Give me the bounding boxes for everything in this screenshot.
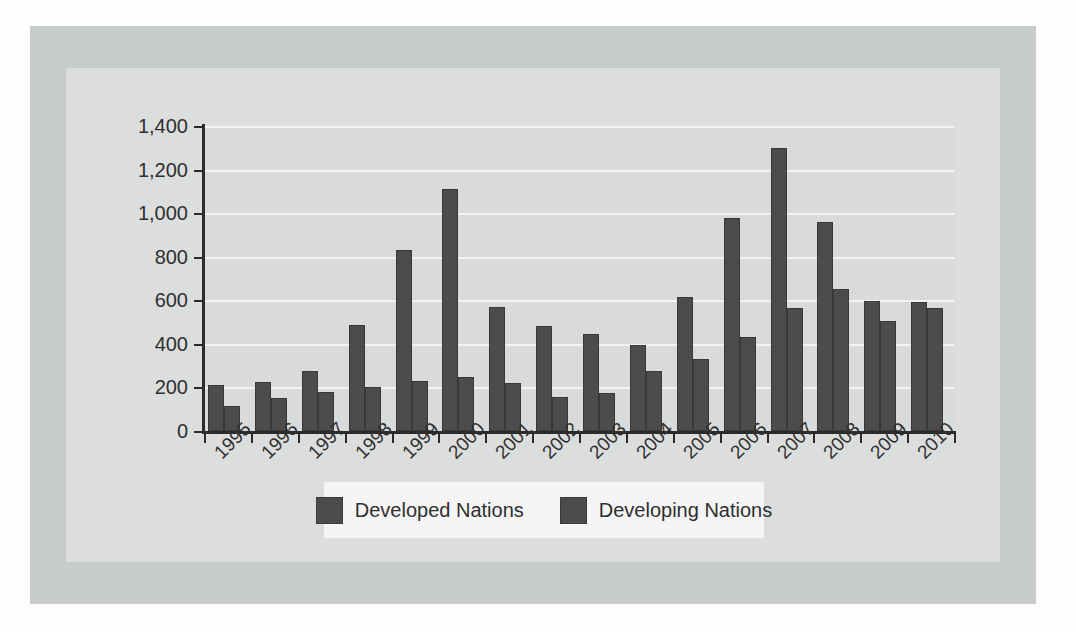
y-tick-label: 400: [155, 332, 188, 355]
y-tick-mark: [194, 170, 203, 172]
y-tick-label: 1,000: [138, 202, 188, 225]
legend-swatch-icon: [316, 497, 343, 524]
gridline: [204, 257, 954, 259]
y-tick-mark: [194, 213, 203, 215]
bar-2005-developed: [677, 297, 693, 431]
bar-1995-developed: [208, 385, 224, 431]
bar-2000-developed: [442, 189, 458, 431]
gridline: [204, 213, 954, 215]
y-tick-mark: [194, 344, 203, 346]
bar-2009-developed: [864, 301, 880, 431]
bar-2008-developing: [833, 289, 849, 431]
legend-item-developing: Developing Nations: [560, 497, 772, 524]
y-tick-label: 800: [155, 245, 188, 268]
y-tick-label: 600: [155, 289, 188, 312]
y-tick-label: 1,400: [138, 115, 188, 138]
inner-panel: 02004006008001,0001,2001,400 19951996199…: [66, 68, 1000, 562]
bar-1997-developed: [302, 371, 318, 431]
bar-2003-developed: [583, 334, 599, 431]
y-axis-labels: 02004006008001,0001,2001,400: [66, 68, 188, 498]
bar-2009-developing: [880, 321, 896, 431]
bar-1999-developed: [396, 250, 412, 431]
outer-panel: 02004006008001,0001,2001,400 19951996199…: [30, 26, 1036, 604]
gridline: [204, 170, 954, 172]
x-tick-mark: [204, 434, 206, 443]
y-tick-label: 200: [155, 376, 188, 399]
y-tick-mark: [194, 126, 203, 128]
bar-2007-developing: [787, 308, 803, 431]
bar-2004-developed: [630, 345, 646, 431]
bar-2001-developed: [489, 307, 505, 431]
legend-label-developed: Developed Nations: [355, 499, 524, 522]
chart-legend: Developed Nations Developing Nations: [324, 482, 764, 538]
legend-label-developing: Developing Nations: [599, 499, 772, 522]
bar-2006-developing: [740, 337, 756, 431]
bar-2002-developed: [536, 326, 552, 431]
y-tick-label: 0: [177, 420, 188, 443]
y-tick-mark: [194, 387, 203, 389]
bar-2006-developed: [724, 218, 740, 432]
y-tick-mark: [194, 257, 203, 259]
bar-1998-developed: [349, 325, 365, 431]
bar-2010-developed: [911, 302, 927, 431]
y-tick-mark: [194, 300, 203, 302]
y-tick-label: 1,200: [138, 158, 188, 181]
plot-area: [204, 126, 954, 431]
bar-chart: 02004006008001,0001,2001,400 19951996199…: [66, 68, 1000, 562]
bar-2008-developed: [817, 222, 833, 431]
chart-screenshot: 02004006008001,0001,2001,400 19951996199…: [0, 0, 1076, 632]
legend-swatch-icon: [560, 497, 587, 524]
bar-2007-developed: [771, 148, 787, 431]
y-tick-mark: [194, 431, 203, 433]
gridline: [204, 126, 954, 128]
bar-1996-developed: [255, 382, 271, 431]
bar-2010-developing: [927, 308, 943, 431]
legend-item-developed: Developed Nations: [316, 497, 524, 524]
